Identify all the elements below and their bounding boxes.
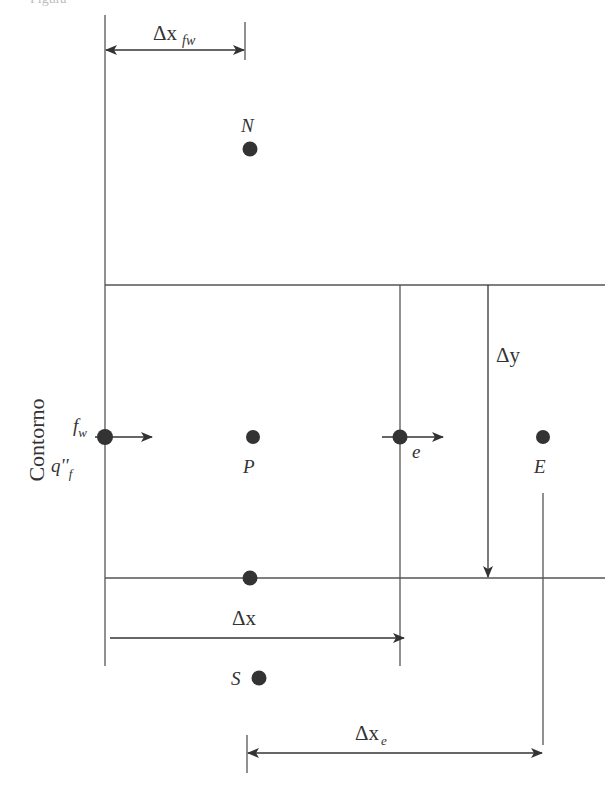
dx-label: Δx: [232, 606, 257, 630]
label-fw: fw: [73, 415, 87, 440]
dx-fw-label: Δxfw: [153, 21, 196, 48]
nodes: [97, 142, 550, 686]
grid-lines: [105, 15, 605, 773]
label-east-face: e: [412, 441, 420, 462]
dy-label: Δy: [496, 343, 521, 367]
control-volume-diagram: Δxfw N P E S fw e q''f Δy Δx Δxe Contorn…: [0, 0, 616, 795]
flux-label: q''f: [51, 455, 75, 481]
node-p: [246, 430, 260, 444]
label-n: N: [240, 115, 255, 136]
boundary-label: Contorno: [24, 398, 49, 481]
node-south-face: [243, 571, 258, 586]
node-e: [536, 430, 550, 444]
node-n: [243, 142, 258, 157]
label-e-node: E: [533, 456, 546, 477]
label-s: S: [231, 668, 241, 689]
label-p: P: [242, 456, 255, 477]
node-s: [252, 671, 267, 686]
node-east-face: [393, 430, 408, 445]
dimension-arrows: [95, 50, 542, 753]
node-fw: [97, 429, 113, 445]
labels: Δxfw N P E S fw e q''f Δy Δx Δxe Contorn…: [24, 21, 546, 748]
dx-e-label: Δxe: [355, 721, 387, 748]
